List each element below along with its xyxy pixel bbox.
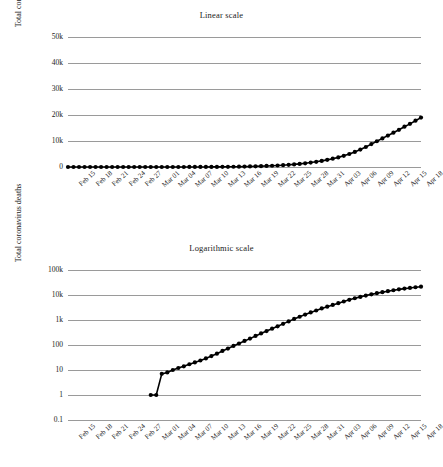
data-point: [248, 337, 252, 341]
x-axis-tick-label: Mar 25: [293, 170, 313, 189]
y-axis-tick-label: 40k: [52, 59, 63, 67]
plot-area-linear: 010k20k30k40k50k: [68, 37, 421, 167]
series-linear: [68, 37, 421, 167]
data-point: [375, 291, 379, 295]
y-axis-tick-label: 10k: [52, 137, 63, 145]
x-axis-tick-label: Apr 09: [376, 170, 395, 188]
data-point: [303, 161, 307, 165]
data-point: [209, 165, 213, 169]
data-point: [154, 393, 158, 397]
data-point: [287, 319, 291, 323]
data-point: [358, 147, 362, 151]
data-point: [182, 364, 186, 368]
data-point: [336, 301, 340, 305]
data-point: [209, 354, 213, 358]
y-axis-label-linear: Total coronavirus deaths: [14, 0, 28, 54]
x-axis-tick-label: Feb 24: [128, 423, 147, 441]
data-point: [270, 164, 274, 168]
data-point: [127, 165, 131, 169]
data-point: [160, 372, 164, 376]
data-point: [386, 133, 390, 137]
data-point: [353, 150, 357, 154]
x-axis-tick-label: Mar 04: [178, 423, 198, 442]
x-axis-tick-label: Mar 28: [310, 170, 330, 189]
data-point: [347, 152, 351, 156]
data-point: [298, 162, 302, 166]
x-axis-tick-label: Feb 27: [144, 423, 163, 441]
x-axis-tick-label: Feb 15: [78, 170, 97, 188]
data-point: [226, 165, 230, 169]
y-axis-tick-label: 10: [56, 366, 64, 374]
data-point: [391, 131, 395, 135]
x-axis-tick-label: Apr 12: [392, 423, 411, 441]
data-point: [215, 352, 219, 356]
data-point: [391, 288, 395, 292]
series-line: [151, 287, 421, 395]
x-axis-tick-label: Mar 07: [194, 423, 214, 442]
x-axis-tick-label: Feb 27: [144, 170, 163, 188]
data-point: [242, 339, 246, 343]
x-axis-tick-label: Apr 18: [426, 170, 443, 188]
data-point: [380, 290, 384, 294]
data-point: [331, 303, 335, 307]
data-point: [336, 155, 340, 159]
x-axis-tick-label: Feb 18: [94, 423, 113, 441]
data-point: [176, 366, 180, 370]
data-point: [259, 164, 263, 168]
data-point: [358, 295, 362, 299]
data-point: [242, 164, 246, 168]
data-point: [77, 165, 81, 169]
data-point: [116, 165, 120, 169]
data-point: [270, 327, 274, 331]
x-axis-tick-label: Feb 21: [111, 423, 130, 441]
x-axis-tick-label: Feb 15: [78, 423, 97, 441]
data-point: [132, 165, 136, 169]
chart-panel-log: Logarithmic scale Total coronavirus deat…: [0, 233, 443, 467]
x-axis-tick-label: Feb 21: [111, 170, 130, 188]
data-point: [375, 139, 379, 143]
x-axis-tick-label: Apr 15: [409, 170, 428, 188]
x-axis-tick-label: Mar 04: [178, 170, 198, 189]
y-axis-label-log: Total coronavirus deaths: [14, 157, 28, 289]
data-point: [397, 128, 401, 132]
y-axis-tick-label: 0: [59, 163, 63, 171]
plot-area-log: 0.11101001k10k100k: [68, 270, 421, 420]
data-point: [149, 165, 153, 169]
x-axis-tick-label: Feb 18: [94, 170, 113, 188]
data-point: [204, 356, 208, 360]
data-point: [314, 308, 318, 312]
data-point: [402, 287, 406, 291]
data-point: [419, 285, 423, 289]
data-point: [281, 322, 285, 326]
data-point: [215, 165, 219, 169]
data-point: [99, 165, 103, 169]
data-point: [408, 286, 412, 290]
y-axis-tick-label: 50k: [52, 33, 63, 41]
x-axis-tick-label: Mar 13: [227, 170, 247, 189]
data-point: [369, 142, 373, 146]
data-point: [347, 298, 351, 302]
data-point: [165, 370, 169, 374]
data-point: [253, 334, 257, 338]
y-axis-tick-label: 1: [59, 391, 63, 399]
data-point: [220, 349, 224, 353]
x-axis-tick-label: Apr 15: [409, 423, 428, 441]
y-axis-tick-label: 100k: [48, 266, 63, 274]
data-point: [193, 360, 197, 364]
gridline: [68, 420, 421, 421]
data-point: [193, 165, 197, 169]
data-point: [110, 165, 114, 169]
x-axis-tick-label: Apr 09: [376, 423, 395, 441]
data-point: [82, 165, 86, 169]
data-point: [287, 163, 291, 167]
data-point: [93, 165, 97, 169]
y-axis-tick-label: 30k: [52, 85, 63, 93]
data-point: [320, 306, 324, 310]
data-point: [204, 165, 208, 169]
data-point: [298, 315, 302, 319]
x-axis-tick-label: Mar 31: [326, 170, 346, 189]
data-point: [171, 165, 175, 169]
chart-panel-linear: Linear scale Total coronavirus deaths 01…: [0, 0, 443, 235]
x-axis-tick-label: Apr 03: [343, 170, 362, 188]
x-axis-tick-label: Mar 16: [244, 170, 264, 189]
